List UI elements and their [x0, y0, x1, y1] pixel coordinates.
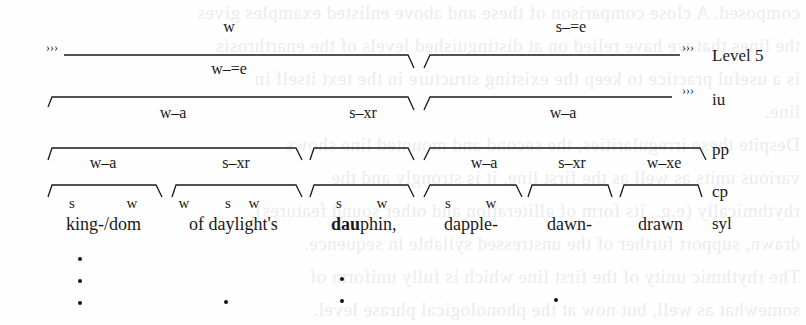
grid-dot	[224, 300, 228, 304]
level-label-level5: Level 5	[712, 46, 763, 66]
continuation-mark-left: ›››	[46, 40, 58, 55]
metrical-grid-diagram: composed. A close comparison of these an…	[0, 0, 806, 325]
stress-label: s	[69, 195, 75, 212]
level-label-cp: cp	[712, 182, 728, 202]
continuation-mark-iu: ›››	[682, 83, 694, 98]
level5-left-below: w–=e	[211, 60, 247, 78]
grid-dot	[340, 277, 344, 281]
iu-middle-label: s–xr	[349, 104, 377, 122]
grid-dot	[78, 257, 82, 261]
pp-label: w–xe	[647, 154, 682, 172]
word-dauphin-bold: dau	[331, 214, 360, 234]
pp-bracket-2	[310, 148, 414, 160]
stress-label: w	[127, 195, 138, 212]
level-label-iu: iu	[712, 90, 725, 110]
grid-dot	[78, 301, 82, 305]
grid-dot	[340, 299, 344, 303]
continuation-mark-right: ›››	[682, 40, 694, 55]
word-dawn: dawn-	[547, 214, 592, 235]
cp-bracket-4	[424, 185, 522, 197]
stress-label: w	[249, 195, 260, 212]
level5-right-bracket	[424, 55, 680, 68]
stress-label: w	[486, 195, 497, 212]
word-of-daylights: of daylight's	[189, 214, 278, 235]
cp-bracket-6	[620, 185, 702, 197]
level-label-syl: syl	[712, 214, 732, 234]
stress-label: w	[377, 195, 388, 212]
cp-bracket-3	[310, 185, 414, 197]
pp-bracket-1	[48, 148, 302, 160]
stress-label: s	[225, 195, 231, 212]
word-kingdom: king-/dom	[66, 214, 141, 235]
word-dauphin-rest: phin,	[360, 214, 397, 234]
level5-right-above: s–=e	[556, 18, 586, 36]
stress-label: w	[179, 195, 190, 212]
grid-dot	[554, 298, 558, 302]
cp-bracket-5	[528, 185, 612, 197]
stress-label: s	[445, 195, 451, 212]
pp-label: w–a	[471, 154, 498, 172]
cp-bracket-2	[172, 185, 302, 197]
stress-label: s	[336, 195, 342, 212]
grid-dot	[78, 279, 82, 283]
cp-bracket-1	[48, 185, 162, 197]
iu-left-label: w–a	[160, 104, 187, 122]
pp-label: s–xr	[222, 154, 250, 172]
word-drawn: drawn	[638, 214, 683, 235]
word-dauphin: dauphin,	[331, 214, 397, 235]
iu-right-label: w–a	[550, 104, 577, 122]
level5-left-above: w	[223, 18, 235, 36]
pp-label: w–a	[90, 154, 117, 172]
word-dapple: dapple-	[444, 214, 498, 235]
iu-right-bracket	[424, 97, 672, 110]
pp-label: s–xr	[558, 154, 586, 172]
level-label-pp: pp	[712, 140, 729, 160]
